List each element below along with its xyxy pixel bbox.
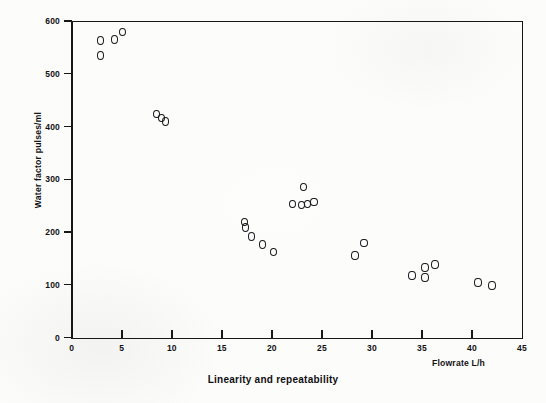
x-axis-tick: [471, 330, 472, 338]
x-axis-tick-label: 40: [459, 343, 485, 353]
data-point: [431, 260, 438, 269]
data-point: [351, 251, 358, 260]
x-axis-tick-label: 5: [109, 343, 135, 353]
x-axis-tick-label: 20: [259, 343, 285, 353]
data-point: [300, 183, 307, 192]
x-axis-tick-label: 0: [59, 343, 85, 353]
x-axis-tick: [121, 330, 122, 338]
x-axis-tick: [71, 330, 72, 338]
data-point: [474, 278, 481, 287]
y-axis-title: Water factor pulses/ml: [33, 65, 43, 255]
figure-page: 0100200300400500600 051015202530354045 W…: [0, 0, 546, 403]
data-point: [270, 248, 277, 257]
data-point: [111, 35, 118, 44]
x-axis-tick: [321, 330, 322, 338]
x-axis-tick-label: 45: [509, 343, 535, 353]
figure-caption: Linearity and repeatability: [0, 374, 546, 385]
data-point: [421, 263, 428, 272]
x-axis-tick-label: 30: [359, 343, 385, 353]
x-axis-tick: [271, 330, 272, 338]
x-axis-tick: [221, 330, 222, 338]
x-axis-tick-label: 15: [209, 343, 235, 353]
plot-frame-top: [71, 21, 523, 22]
data-point: [488, 281, 495, 290]
y-axis-tick: [64, 231, 72, 232]
x-axis-title: Flowrate L/h: [432, 358, 485, 368]
data-point: [310, 198, 317, 207]
data-point: [408, 271, 415, 280]
data-point: [119, 28, 126, 37]
data-point: [289, 200, 296, 209]
data-point: [162, 117, 169, 126]
scatter-plot: 0100200300400500600 051015202530354045 W…: [0, 0, 546, 403]
x-axis-tick: [421, 330, 422, 338]
x-axis-tick: [371, 330, 372, 338]
data-point: [97, 36, 104, 45]
x-axis-tick-label: 25: [309, 343, 335, 353]
y-axis-line: [71, 21, 73, 339]
x-axis-tick-label: 10: [159, 343, 185, 353]
y-axis-tick: [64, 20, 72, 21]
y-axis-tick: [64, 284, 72, 285]
x-axis-line: [71, 338, 523, 340]
data-point: [242, 223, 249, 232]
data-point: [421, 273, 428, 282]
x-axis-tick-label: 35: [409, 343, 435, 353]
data-point: [248, 232, 255, 241]
y-axis-tick-label: 100: [34, 280, 60, 290]
y-axis-tick: [64, 73, 72, 74]
data-point: [259, 240, 266, 249]
data-point: [360, 239, 367, 248]
y-axis-tick: [64, 126, 72, 127]
y-axis-tick-label: 600: [34, 16, 60, 26]
data-point: [97, 51, 104, 60]
y-axis-tick: [64, 179, 72, 180]
plot-frame-right: [522, 21, 523, 339]
x-axis-tick: [171, 330, 172, 338]
y-axis-tick-label: 0: [34, 333, 60, 343]
